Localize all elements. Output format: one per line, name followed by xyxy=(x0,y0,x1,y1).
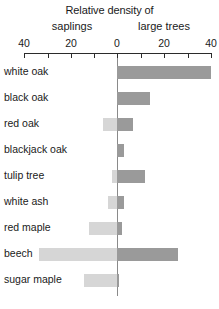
tick-label-1: 20 xyxy=(59,37,83,49)
bar-row: black oak xyxy=(0,86,219,110)
bar-saplings xyxy=(89,222,117,235)
bar-row: red maple xyxy=(0,216,219,240)
category-label: red maple xyxy=(4,221,80,233)
bar-large-trees xyxy=(117,196,124,209)
bar-saplings xyxy=(103,118,117,131)
plot-area: white oakblack oakred oakblackjack oaktu… xyxy=(0,58,219,302)
chart-title: Relative density of xyxy=(0,4,219,16)
category-label: white ash xyxy=(4,195,80,207)
axis-subtitle-large-trees: large trees xyxy=(118,20,210,32)
bar-large-trees xyxy=(117,92,150,105)
bar-row: red oak xyxy=(0,112,219,136)
tick-label-0: 40 xyxy=(12,37,36,49)
bar-large-trees xyxy=(117,222,122,235)
category-label: tulip tree xyxy=(4,169,80,181)
bar-large-trees xyxy=(117,66,211,79)
bar-large-trees xyxy=(117,118,133,131)
bar-saplings xyxy=(108,196,117,209)
bar-row: white ash xyxy=(0,190,219,214)
bar-row: blackjack oak xyxy=(0,138,219,162)
bar-large-trees xyxy=(117,274,119,287)
bar-large-trees xyxy=(117,170,145,183)
tick-label-4: 40 xyxy=(199,37,219,49)
bar-row: beech xyxy=(0,242,219,266)
bar-large-trees xyxy=(117,144,124,157)
bar-large-trees xyxy=(117,248,178,261)
axis-subtitle-saplings: saplings xyxy=(28,20,116,32)
category-label: red oak xyxy=(4,117,80,129)
category-label: sugar maple xyxy=(4,273,80,285)
bar-row: sugar maple xyxy=(0,268,219,292)
category-label: white oak xyxy=(4,65,80,77)
tick-label-2: 0 xyxy=(105,37,129,49)
relative-density-chart: Relative density of saplings large trees… xyxy=(0,0,219,309)
bar-row: white oak xyxy=(0,60,219,84)
bar-row: tulip tree xyxy=(0,164,219,188)
bar-saplings xyxy=(39,248,117,261)
tick-label-3: 20 xyxy=(152,37,176,49)
category-label: blackjack oak xyxy=(4,143,80,155)
category-label: black oak xyxy=(4,91,80,103)
bar-saplings xyxy=(84,274,117,287)
axis-line xyxy=(24,53,212,54)
